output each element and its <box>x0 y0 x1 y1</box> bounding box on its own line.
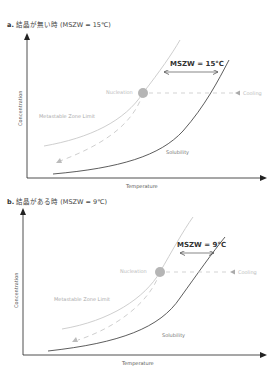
x-axis <box>23 352 267 358</box>
cooling-label: Cooling <box>238 269 257 276</box>
nucleation-dot <box>155 267 165 277</box>
y-axis-label: Concentration <box>17 91 23 126</box>
cooling-label: Cooling <box>243 90 262 97</box>
x-axis <box>27 175 267 181</box>
y-axis <box>20 208 26 355</box>
mszw-label: MSZW = 9°C <box>177 241 226 249</box>
metastable-zone-limit-label: Metastable Zone Limit <box>54 296 110 302</box>
solubility-label: Solubility <box>166 149 189 156</box>
metastable-zone-limit-label: Metastable Zone Limit <box>39 113 95 119</box>
cooling-arrow-icon <box>230 270 235 275</box>
nucleation-label: Nucleation <box>120 268 147 274</box>
cooling-arrow-icon <box>235 91 240 96</box>
nucleation-dot <box>138 88 148 98</box>
supersaturation-dashed-path <box>60 93 143 161</box>
mszw-label: MSZW = 15°C <box>170 60 224 68</box>
dashed-path-arrow-icon <box>72 337 78 342</box>
panel-a-diagram: MSZW = 15°C Nucleation Cooling Metastabl… <box>0 26 269 201</box>
x-axis-label: Temperature <box>125 183 158 190</box>
solubility-curve <box>48 237 225 351</box>
solubility-label: Solubility <box>162 332 185 339</box>
y-axis-label: Concentration <box>13 273 19 308</box>
x-axis-label: Temperature <box>121 360 154 367</box>
supersaturation-dashed-path <box>78 272 160 340</box>
y-axis <box>24 33 30 178</box>
nucleation-label: Nucleation <box>106 89 133 95</box>
panel-b-diagram: MSZW = 9°C Nucleation Cooling Metastable… <box>0 203 269 368</box>
